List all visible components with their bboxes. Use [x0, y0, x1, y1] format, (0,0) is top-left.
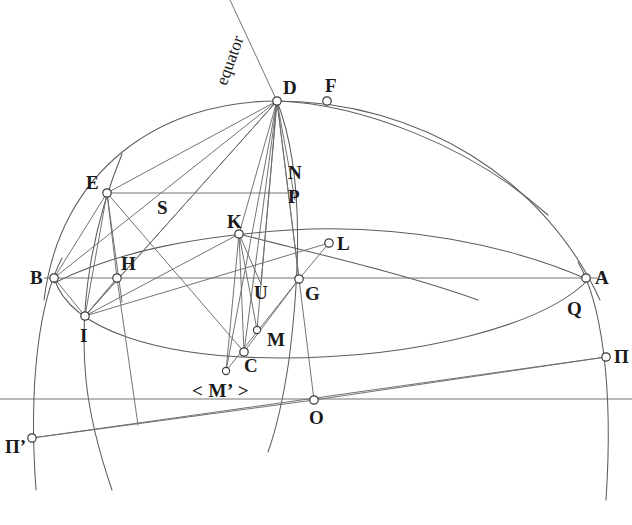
line-D-O — [277, 101, 314, 400]
line-O-Pi — [314, 357, 606, 400]
line-Piprime-O — [32, 400, 314, 438]
point-label-C: C — [244, 356, 258, 375]
point-marker-G — [295, 275, 303, 283]
point-marker-Mp — [222, 367, 229, 374]
line-E-Hdown — [107, 193, 122, 302]
point-label-O: O — [309, 408, 324, 427]
point-label-E: E — [86, 173, 99, 192]
line-B-I — [54, 278, 85, 316]
point-marker-A — [582, 274, 590, 282]
point-label-K: K — [227, 212, 242, 231]
point-marker-L — [325, 239, 333, 247]
geometric-diagram: DFENPSKLBHAGUQIMCПOП’ equator < M’ > — [0, 0, 632, 525]
point-label-L: L — [337, 234, 350, 253]
point-label-S: S — [157, 198, 168, 217]
arc-D-F-right — [277, 101, 548, 215]
point-label-F: F — [325, 76, 337, 95]
curves-layer — [34, 101, 609, 500]
point-marker-I — [81, 312, 89, 320]
point-marker-O — [310, 396, 318, 404]
point-label-B: B — [30, 268, 43, 287]
right-meridian-A-Pi — [578, 262, 608, 500]
diagram-canvas — [0, 0, 632, 525]
point-label-I: I — [80, 326, 87, 345]
point-marker-E — [103, 189, 111, 197]
point-marker-B — [50, 274, 58, 282]
m-prime-annotation: < M’ > — [192, 381, 249, 400]
line-K-Mprime — [226, 234, 239, 371]
lines-layer — [0, 0, 632, 438]
line-L-G — [299, 243, 329, 279]
point-marker-Pip — [28, 434, 36, 442]
point-label-N: N — [288, 163, 302, 182]
point-label-A: A — [595, 268, 609, 287]
point-marker-D — [273, 97, 281, 105]
nodes-layer — [28, 97, 610, 442]
point-label-Q: Q — [567, 299, 582, 318]
point-marker-Mt — [253, 326, 260, 333]
line-K-C — [239, 234, 244, 352]
point-label-D: D — [283, 78, 297, 97]
arc-K-inner-right — [239, 234, 478, 300]
point-label-Pip: П’ — [5, 437, 26, 456]
point-label-P: P — [288, 187, 300, 206]
point-label-U: U — [254, 283, 268, 302]
point-label-G: G — [305, 284, 320, 303]
point-marker-H — [113, 274, 121, 282]
point-marker-Pi — [602, 353, 610, 361]
line-H-down — [117, 278, 138, 425]
left-meridian-B-Piprime — [34, 258, 62, 490]
point-label-Pi: П — [614, 347, 629, 366]
point-marker-F — [323, 97, 331, 105]
point-label-H: H — [121, 254, 136, 273]
point-label-Mt: M — [267, 330, 285, 349]
